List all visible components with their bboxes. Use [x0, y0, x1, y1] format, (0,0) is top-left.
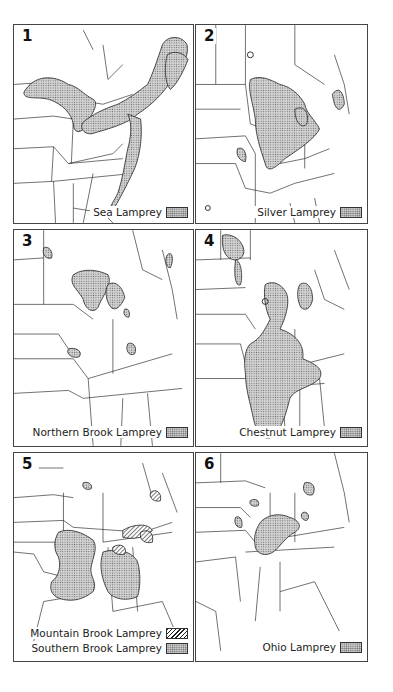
legend-silver-lamprey: Silver Lamprey — [254, 206, 362, 218]
stipple-swatch-icon — [166, 207, 188, 218]
stipple-swatch-icon — [340, 642, 362, 653]
stipple-swatch-icon — [340, 207, 362, 218]
legend-southern-brook-lamprey: Southern Brook Lamprey — [28, 642, 188, 654]
legend-ohio-lamprey: Ohio Lamprey — [259, 641, 362, 653]
legend-label: Chestnut Lamprey — [239, 426, 336, 438]
map-chestnut-lamprey — [196, 230, 367, 446]
map-sea-lamprey — [14, 25, 193, 223]
panel-number: 2 — [202, 28, 216, 44]
map-panel-3: 3 Northern Brook Lamprey — [13, 229, 194, 447]
legend-label: Southern Brook Lamprey — [31, 642, 162, 654]
stipple-swatch-icon — [166, 427, 188, 438]
panel-number: 1 — [20, 28, 34, 44]
panel-number: 5 — [20, 456, 34, 472]
panel-number: 6 — [202, 456, 216, 472]
map-panel-1: 1 Sea Lamprey — [13, 24, 194, 224]
map-panel-4: 4 Chestnut Lamprey — [195, 229, 368, 447]
legend-label: Mountain Brook Lamprey — [30, 627, 162, 639]
map-panel-6: 6 Ohio Lamprey — [195, 452, 368, 662]
panel-number: 4 — [202, 233, 216, 249]
legend-label: Sea Lamprey — [93, 206, 162, 218]
legend-chestnut-lamprey: Chestnut Lamprey — [236, 426, 362, 438]
stipple-swatch-icon — [166, 643, 188, 654]
legend-label: Northern Brook Lamprey — [33, 426, 162, 438]
legend-label: Silver Lamprey — [257, 206, 336, 218]
legend-sea-lamprey: Sea Lamprey — [90, 206, 188, 218]
stipple-swatch-icon — [340, 427, 362, 438]
legend-label: Ohio Lamprey — [262, 641, 336, 653]
panel-number: 3 — [20, 233, 34, 249]
map-northern-brook-lamprey — [14, 230, 193, 446]
map-panel-2: 2 Silver Lamprey — [195, 24, 368, 224]
legend-mountain-brook-lamprey: Mountain Brook Lamprey — [27, 627, 188, 639]
map-ohio-lamprey — [196, 453, 367, 661]
hatch-swatch-icon — [166, 628, 188, 639]
map-panel-5: 5 Mountain Brook Lamprey Southern Brook … — [13, 452, 194, 662]
legend-northern-brook-lamprey: Northern Brook Lamprey — [30, 426, 188, 438]
map-silver-lamprey — [196, 25, 367, 223]
